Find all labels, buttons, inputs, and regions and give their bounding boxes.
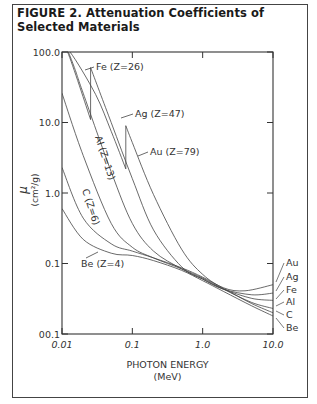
plot-area-border <box>62 52 273 334</box>
annotation-be: Be (Z=4) <box>81 258 124 269</box>
annotation-fe: Fe (Z=26) <box>96 61 144 72</box>
right-label-be: Be <box>286 322 299 333</box>
annotation-al: Al (Z=13) <box>93 134 118 181</box>
right-label-al: Al <box>286 296 295 307</box>
y-tick-label: 0.1 <box>45 258 60 269</box>
plot-axes: 0.010.11.010.000.10.11.010.0100.0PHOTON … <box>16 47 284 383</box>
annotation-leader <box>85 67 94 70</box>
x-tick-label: 1.0 <box>195 339 210 350</box>
annotation-c: C (Z=6) <box>80 187 102 226</box>
attenuation-chart: 0.010.11.010.000.10.11.010.0100.0PHOTON … <box>0 0 317 404</box>
x-axis-label: PHOTON ENERGY <box>126 359 208 370</box>
y-tick-label: 10.0 <box>39 117 60 128</box>
plot-labels: Fe (Z=26)Ag (Z=47)Au (Z=79)Al (Z=13)C (Z… <box>80 61 298 333</box>
right-label-leader <box>276 290 284 299</box>
y-axis-label: μ <box>16 186 30 195</box>
right-label-leader <box>276 311 284 315</box>
x-tick-label: 0.1 <box>125 339 140 350</box>
x-tick-label: 10.0 <box>262 339 283 350</box>
right-label-leader <box>276 318 284 328</box>
annotation-leader <box>121 114 133 118</box>
right-label-fe: Fe <box>286 284 297 295</box>
y-tick-label: 1.0 <box>45 188 60 199</box>
y-tick-label: 00.1 <box>39 329 60 340</box>
x-tick-label: 0.01 <box>51 339 72 350</box>
curve-au <box>62 49 273 291</box>
right-label-au: Au <box>286 257 299 268</box>
annotation-ag: Ag (Z=47) <box>135 108 185 119</box>
right-label-ag: Ag <box>286 271 299 282</box>
plot-curves <box>62 36 273 316</box>
y-axis-unit: (cm²/g) <box>30 173 40 206</box>
right-label-c: C <box>286 309 293 320</box>
y-tick-label: 100.0 <box>33 47 60 58</box>
x-axis-unit: (MeV) <box>154 371 182 382</box>
right-label-leader <box>276 302 284 306</box>
annotation-leader <box>138 152 148 156</box>
annotation-au: Au (Z=79) <box>150 146 200 157</box>
